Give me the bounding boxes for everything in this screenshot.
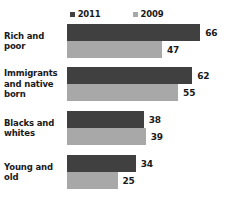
bar-group: Blacks and whites3839 — [0, 111, 233, 145]
bar-2011-3[interactable] — [67, 155, 136, 172]
bar-value-label: 39 — [151, 132, 163, 142]
bar-value-label: 66 — [205, 28, 217, 38]
plot-area: Rich and poor6647Immigrants and native b… — [0, 22, 233, 200]
chart-legend: 2011 2009 — [0, 7, 233, 21]
bar-2011-1[interactable] — [67, 67, 192, 84]
bar-group: Rich and poor6647 — [0, 24, 233, 58]
legend-entry-2009[interactable]: 2009 — [133, 10, 164, 19]
bar-2009-3[interactable] — [67, 172, 118, 189]
bar-2011-0[interactable] — [67, 24, 200, 41]
bar-value-label: 47 — [167, 45, 179, 55]
category-label: Rich and poor — [4, 31, 64, 52]
category-label: Blacks and whites — [4, 118, 64, 139]
grouped-bar-chart: 2011 2009 Rich and poor6647Immigrants an… — [0, 0, 233, 205]
bar-group: Young and old3425 — [0, 155, 233, 189]
legend-label-2009: 2009 — [141, 10, 164, 19]
bar-2009-2[interactable] — [67, 128, 146, 145]
bar-value-label: 38 — [149, 115, 161, 125]
bar-2009-1[interactable] — [67, 84, 178, 101]
category-label: Young and old — [4, 162, 64, 183]
legend-entry-2011[interactable]: 2011 — [70, 10, 101, 19]
legend-label-2011: 2011 — [78, 10, 101, 19]
bar-value-label: 62 — [197, 71, 209, 81]
category-label: Immigrants and native born — [4, 68, 64, 100]
bar-value-label: 25 — [123, 176, 135, 186]
square-swatch-icon — [133, 12, 138, 17]
bar-2011-2[interactable] — [67, 111, 144, 128]
bar-value-label: 55 — [183, 88, 195, 98]
square-swatch-icon — [70, 12, 75, 17]
bar-group: Immigrants and native born6255 — [0, 67, 233, 101]
bar-2009-0[interactable] — [67, 41, 162, 58]
bar-value-label: 34 — [141, 159, 153, 169]
